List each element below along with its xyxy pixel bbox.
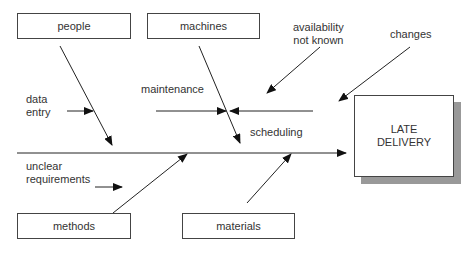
machines-label: machines — [180, 20, 227, 32]
category-machines: machines — [147, 13, 260, 39]
people-label: people — [57, 20, 90, 32]
effect-line1: LATE — [377, 123, 431, 136]
effect-box: LATE DELIVERY — [354, 95, 454, 177]
cause-availability: availability not known — [293, 21, 344, 47]
cause-scheduling: scheduling — [250, 126, 303, 139]
changes-arrow — [339, 47, 410, 101]
category-methods: methods — [17, 213, 131, 239]
cause-data-entry: data entry — [26, 93, 50, 119]
category-materials: materials — [182, 213, 295, 239]
methods-label: methods — [53, 220, 95, 232]
materials-bone — [247, 154, 291, 203]
people-bone — [60, 46, 112, 145]
cause-maintenance: maintenance — [141, 83, 204, 96]
effect-line2: DELIVERY — [377, 136, 431, 149]
cause-unclear-requirements: unclear requirements — [26, 160, 90, 186]
materials-label: materials — [216, 220, 261, 232]
cause-changes: changes — [390, 28, 432, 41]
methods-bone — [113, 154, 187, 213]
machines-bone — [199, 46, 240, 143]
availability-arrow — [267, 47, 320, 93]
category-people: people — [17, 13, 131, 39]
